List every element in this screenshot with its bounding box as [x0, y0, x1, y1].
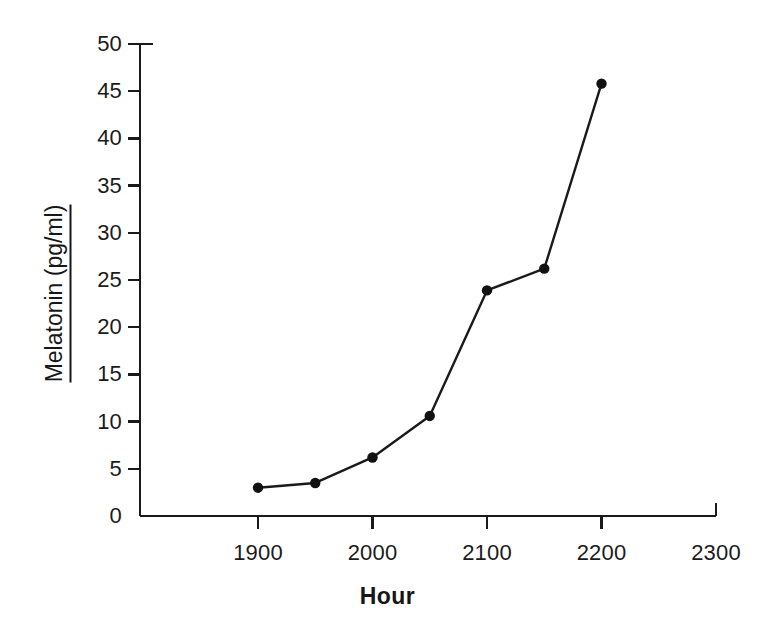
x-tick-label: 2200 [577, 540, 627, 566]
data-point-marker [425, 411, 435, 421]
x-tick-label: 2100 [462, 540, 512, 566]
y-tick-label: 5 [44, 456, 122, 482]
data-point-marker [539, 263, 549, 273]
y-tick-label: 40 [44, 125, 122, 151]
data-point-markers [253, 78, 607, 492]
melatonin-data-line [258, 84, 602, 488]
data-point-marker [482, 285, 492, 295]
x-tick-label: 2000 [348, 540, 398, 566]
data-point-marker [596, 78, 606, 88]
y-tick-label: 0 [44, 503, 122, 529]
y-tick-label: 50 [44, 31, 122, 57]
y-axis-title-text: Melatonin (pg/ml) [41, 205, 72, 383]
y-axis-title: Melatonin (pg/ml) [41, 164, 68, 424]
axes [140, 44, 716, 516]
data-point-marker [310, 478, 320, 488]
x-tick-label: 2300 [691, 540, 741, 566]
data-point-marker [253, 482, 263, 492]
data-point-marker [367, 452, 377, 462]
axis-ticks [128, 44, 716, 529]
melatonin-line-chart: 05101520253035404550 1900200021002200230… [0, 0, 775, 624]
y-tick-label: 45 [44, 78, 122, 104]
x-tick-label: 1900 [233, 540, 283, 566]
x-axis-title: Hour [0, 583, 775, 610]
